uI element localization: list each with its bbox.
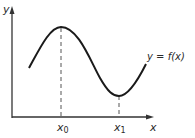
x-axis-arrow-icon	[146, 115, 154, 120]
y-axis-label: y	[2, 3, 10, 16]
x1-label: x1	[113, 121, 126, 135]
x-axis-label: x	[149, 121, 157, 134]
function-graph: y x x0 x1 y = f(x)	[0, 0, 195, 138]
curve-label: y = f(x)	[146, 51, 185, 62]
curve-fx	[29, 27, 146, 96]
x0-label: x0	[56, 121, 69, 135]
y-axis-arrow-icon	[10, 6, 15, 14]
